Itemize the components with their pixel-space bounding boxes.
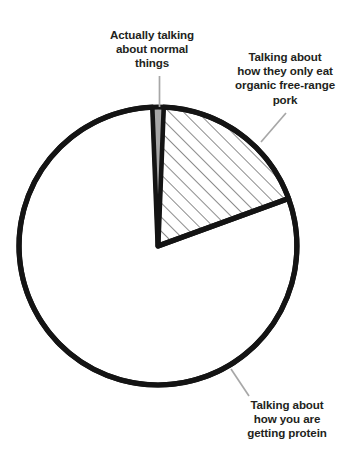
callout-label-organic-pork: Talking about how they only eat organic … <box>212 50 358 107</box>
leader-line-protein <box>231 369 249 396</box>
callout-label-normal-things: Actually talking about normal things <box>84 28 220 71</box>
pie-chart-figure: Actually talking about normal things Tal… <box>0 0 358 469</box>
leader-line-pork <box>261 113 286 142</box>
callout-label-getting-protein: Talking about how you are getting protei… <box>222 398 352 441</box>
